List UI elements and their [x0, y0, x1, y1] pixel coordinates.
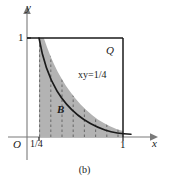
x-tick-label-1: 1 — [120, 139, 126, 150]
region-label-q: Q — [106, 45, 114, 56]
x-axis-label: x — [152, 138, 157, 149]
y-tick-label-1: 1 — [18, 32, 24, 43]
plot-canvas — [0, 0, 169, 184]
origin-label: O — [13, 139, 21, 150]
figure-caption: (b) — [0, 165, 169, 175]
y-axis-label: y — [26, 2, 31, 13]
x-tick-label-quarter: 1/4 — [30, 139, 43, 149]
region-label-b: B — [57, 104, 64, 115]
math-figure: y x O 1 1/4 1 Q B xy=1/4 (b) — [0, 0, 169, 184]
curve-equation-label: xy=1/4 — [78, 70, 106, 80]
